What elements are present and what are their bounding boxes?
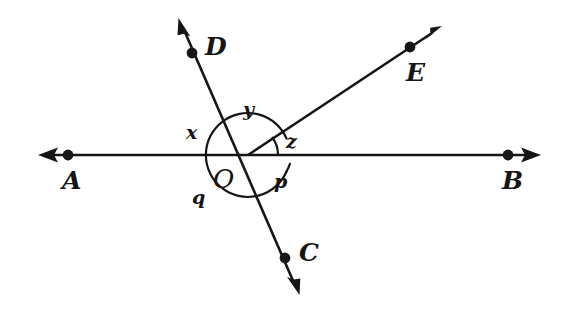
point-dot-E [405, 42, 416, 53]
ray-OE-segment [248, 33, 432, 155]
angle-label-x: x [186, 123, 197, 142]
geometry-figure: A B C D E O x y z p q [0, 0, 568, 310]
point-dot-A [63, 150, 74, 161]
z-angle-arc-path [273, 138, 278, 155]
ray-OE [248, 26, 442, 155]
point-dot-D [187, 48, 198, 59]
point-dot-C [280, 253, 291, 264]
main-angle-arc-cap [287, 164, 290, 172]
point-label-D: D [205, 34, 227, 59]
line-DC [178, 18, 301, 295]
line-DC-segment [184, 30, 294, 283]
point-label-B: B [502, 168, 523, 193]
angle-label-p: p [274, 172, 287, 191]
geometry-canvas [0, 0, 568, 310]
angle-label-z: z [286, 132, 297, 151]
arrowhead-E [425, 26, 442, 40]
angle-label-y: y [243, 100, 254, 119]
angle-label-q: q [192, 188, 205, 207]
vertex-label-O: O [213, 166, 234, 192]
point-dot-B [503, 150, 514, 161]
arrowhead-C [287, 277, 300, 295]
point-label-C: C [299, 240, 319, 265]
point-label-E: E [406, 60, 425, 85]
point-label-A: A [62, 168, 81, 193]
z-angle-arc [273, 138, 278, 155]
arrowhead-D [178, 18, 191, 37]
